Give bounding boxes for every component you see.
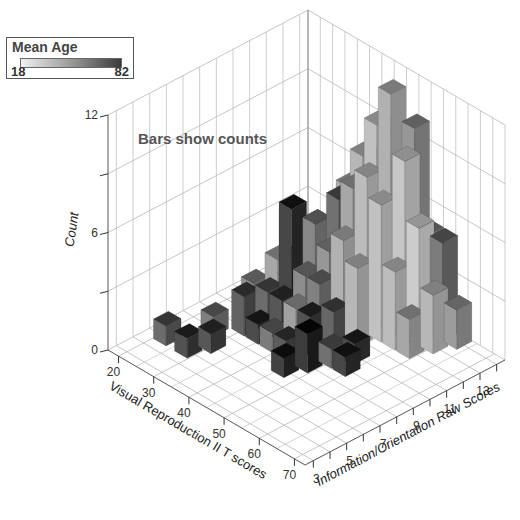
x-tick-label: 70	[283, 468, 297, 482]
legend-title: Mean Age	[12, 39, 78, 55]
bar-face	[420, 288, 433, 354]
bar	[444, 295, 472, 349]
z-tick	[100, 115, 108, 117]
chart-annotation: Bars show counts	[138, 130, 267, 147]
bar-face	[397, 312, 410, 359]
z-tick-label: 6	[91, 226, 98, 240]
bars-group	[153, 79, 471, 378]
bar-face	[457, 302, 472, 349]
z-tick-label: 12	[85, 108, 99, 122]
x-tick-label: 20	[107, 365, 121, 379]
z-tick	[100, 350, 108, 352]
bar-face	[383, 265, 396, 351]
z-tick	[100, 291, 108, 293]
color-legend: Mean Age 18 82	[6, 37, 134, 79]
z-tick	[100, 174, 108, 176]
bar-face	[232, 290, 245, 337]
legend-min: 18	[11, 64, 25, 79]
z-axis-title: Count	[62, 210, 82, 248]
wall-gridline-z	[108, 69, 308, 174]
bar-face	[369, 198, 382, 342]
wall-gridline-z	[108, 10, 308, 115]
z-tick	[100, 233, 108, 235]
bar-face	[295, 327, 308, 374]
bar-face	[444, 303, 457, 350]
y-axis-line	[305, 360, 505, 465]
z-tick-label: 0	[91, 343, 98, 357]
legend-max: 82	[115, 64, 129, 79]
legend-gradient	[20, 58, 122, 68]
